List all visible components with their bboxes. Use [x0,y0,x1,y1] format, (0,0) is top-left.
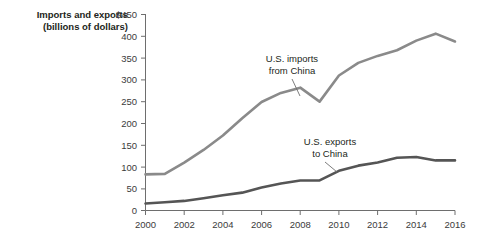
y-tick-250: 250 [121,96,137,107]
annotation-exports-leader-line [325,162,337,172]
x-axis-ticks [146,211,456,216]
annotation-imports-line1: U.S. imports [266,53,319,64]
series-line-us-exports-to-china [146,157,456,204]
annotation-us-exports-to-china: U.S. exports to China [304,136,357,172]
x-tick-2004: 2004 [212,219,233,230]
y-axis-title-line1: Imports and exports [37,9,128,20]
chart-figure: Imports and exports (billions of dollars… [0,0,477,246]
y-tick-100: 100 [121,162,137,173]
y-tick-300: 300 [121,74,137,85]
annotation-imports-line2: from China [269,65,316,76]
y-tick-350: 350 [121,53,137,64]
x-axis-labels: 2000 2002 2004 2006 2008 2010 2012 2014 … [135,219,466,230]
x-tick-2002: 2002 [174,219,195,230]
y-axis-title-line2: (billions of dollars) [43,21,128,32]
x-tick-2010: 2010 [328,219,349,230]
x-tick-2006: 2006 [251,219,272,230]
annotation-exports-line2: to China [312,148,348,159]
y-tick-0: 0 [132,205,137,216]
x-tick-2014: 2014 [406,219,427,230]
x-tick-2000: 2000 [135,219,156,230]
x-tick-2016: 2016 [444,219,465,230]
y-axis-labels: $450 400 350 300 250 200 150 100 50 0 [116,9,137,216]
y-tick-400: 400 [121,31,137,42]
y-axis-ticks [141,15,146,211]
y-tick-450: $450 [116,9,137,20]
y-tick-50: 50 [126,183,137,194]
annotation-exports-line1: U.S. exports [304,136,357,147]
x-tick-2008: 2008 [290,219,311,230]
y-tick-150: 150 [121,140,137,151]
x-tick-2012: 2012 [367,219,388,230]
y-tick-200: 200 [121,118,137,129]
